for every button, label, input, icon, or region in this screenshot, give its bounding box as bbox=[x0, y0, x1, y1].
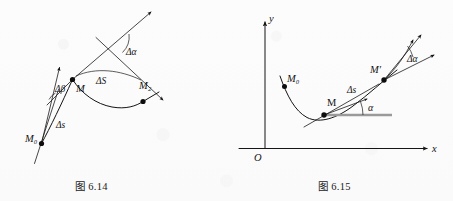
label-axis-y: y bbox=[268, 13, 274, 24]
label-m: M bbox=[327, 97, 337, 108]
label-m-prime: M′ bbox=[369, 64, 382, 75]
label-delta-alpha: Δα bbox=[406, 54, 419, 64]
figure-6-14: M₀ M M₂ Δβ Δs ΔS Δα bbox=[0, 0, 227, 201]
label-origin: O bbox=[254, 152, 262, 163]
label-alpha: α bbox=[368, 102, 374, 113]
tangent-line-at-m0 bbox=[35, 90, 59, 164]
caption-figure-6-15: 图 6.15 bbox=[318, 178, 351, 193]
label-delta-s-lower: Δs bbox=[55, 120, 66, 130]
label-m0: M₀ bbox=[24, 133, 38, 144]
label-delta-s: Δs bbox=[346, 85, 357, 95]
figure-6-15: y x O M₀ M M′ Δs α Δα bbox=[227, 0, 453, 201]
label-delta-alpha: Δα bbox=[125, 47, 138, 57]
tangent-ray-at-m-arrow bbox=[73, 12, 152, 80]
point-dot-m bbox=[321, 112, 326, 117]
label-m2: M₂ bbox=[138, 80, 152, 91]
label-m: M bbox=[75, 83, 86, 94]
tangent-ray-at-m0-arrow bbox=[42, 68, 60, 144]
arc-delta-s-upper bbox=[76, 71, 141, 80]
point-dot-m-prime bbox=[381, 77, 386, 82]
angle-arc-alpha bbox=[361, 102, 364, 116]
label-m0: M₀ bbox=[286, 73, 300, 84]
label-delta-beta: Δβ bbox=[54, 84, 66, 94]
label-axis-x: x bbox=[431, 143, 437, 154]
point-dot-m bbox=[70, 77, 75, 82]
point-dot-m2 bbox=[140, 99, 145, 104]
point-dot-m0 bbox=[282, 84, 287, 89]
label-delta-s-upper: ΔS bbox=[95, 76, 107, 86]
figure-page: M₀ M M₂ Δβ Δs ΔS Δα bbox=[0, 0, 453, 201]
caption-figure-6-14: 图 6.14 bbox=[75, 178, 108, 193]
point-dot-m0 bbox=[39, 141, 44, 146]
